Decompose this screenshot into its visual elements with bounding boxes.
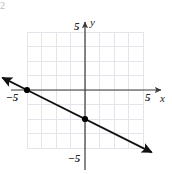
- x-axis-tick-label-negative: −5: [6, 92, 18, 103]
- coordinate-plane-svg: [0, 0, 172, 174]
- x-axis-tick-label-positive: 5: [145, 92, 151, 103]
- point-x-intercept: [24, 87, 30, 93]
- x-axis-label: x: [160, 93, 165, 104]
- point-y-intercept: [82, 116, 88, 122]
- y-axis-tick-label-negative: −5: [68, 153, 80, 164]
- y-axis-label: y: [90, 17, 95, 28]
- graph-figure: 2 5 −5 −5 5 y x: [0, 0, 172, 174]
- y-axis-tick-label-positive: 5: [74, 21, 80, 32]
- figure-corner-mark: 2: [0, 1, 5, 11]
- plotted-line-left-ray: [2, 78, 27, 90]
- plotted-line-right-ray: [27, 90, 152, 152]
